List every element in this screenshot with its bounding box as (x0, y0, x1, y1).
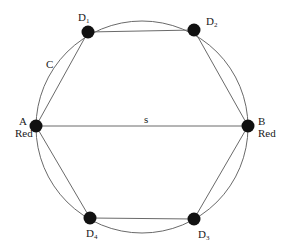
label-b-color: Red (258, 128, 276, 139)
label-b: B (258, 116, 265, 127)
label-d4-subscript: 4 (94, 233, 98, 241)
label-d2-letter: D (206, 15, 214, 27)
label-d2: D2 (206, 16, 217, 29)
label-c-text: C (46, 58, 53, 70)
node-d4 (84, 212, 97, 225)
label-d2-subscript: 2 (214, 21, 218, 29)
label-d1-subscript: 1 (86, 17, 90, 25)
label-b-letter: B (258, 115, 265, 127)
edge-d2-b (194, 30, 248, 126)
label-b-color-text: Red (258, 127, 276, 139)
label-a-letter: A (19, 115, 27, 127)
label-s-text: s (144, 113, 148, 125)
edge-d1-d2 (88, 30, 194, 32)
label-c: C (46, 59, 53, 70)
node-d1 (82, 26, 95, 39)
label-d3-letter: D (198, 228, 206, 240)
label-d1: D1 (78, 12, 89, 25)
node-d3 (188, 213, 201, 226)
label-d3: D3 (198, 229, 209, 242)
label-s: s (144, 114, 148, 125)
outer-circle (36, 21, 248, 233)
graph-diagram (0, 0, 288, 252)
label-d1-letter: D (78, 11, 86, 23)
node-b (242, 120, 255, 133)
node-d2 (188, 24, 201, 37)
edge-d4-a (36, 126, 90, 218)
edge-a-d1 (36, 32, 88, 126)
label-d3-subscript: 3 (206, 234, 210, 242)
edge-b-d3 (194, 126, 248, 219)
label-d4: D4 (86, 228, 97, 241)
label-d4-letter: D (86, 227, 94, 239)
label-a-color: Red (15, 128, 33, 139)
label-a: A (19, 116, 27, 127)
label-a-color-text: Red (15, 127, 33, 139)
edge-d3-d4 (90, 218, 194, 219)
